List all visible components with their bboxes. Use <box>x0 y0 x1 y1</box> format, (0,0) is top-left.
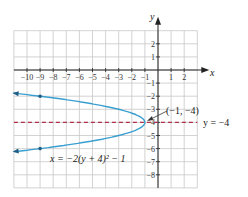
svg-text:−10: −10 <box>21 73 34 82</box>
svg-text:−8: −8 <box>146 171 155 180</box>
svg-text:2: 2 <box>182 73 186 82</box>
svg-text:2: 2 <box>151 40 155 49</box>
svg-text:−9: −9 <box>36 73 45 82</box>
svg-text:−4: −4 <box>101 73 110 82</box>
svg-text:−3: −3 <box>114 73 123 82</box>
equation-label: x = −2(y + 4)² − 1 <box>49 153 126 165</box>
svg-text:−1: −1 <box>146 79 155 88</box>
x-axis-label: x <box>209 67 215 78</box>
svg-text:−3: −3 <box>146 105 155 114</box>
svg-text:−7: −7 <box>146 158 155 167</box>
svg-text:1: 1 <box>169 73 173 82</box>
axis-of-symmetry-label: y = −4 <box>203 117 229 128</box>
svg-text:−2: −2 <box>146 92 155 101</box>
svg-text:−2: −2 <box>128 73 137 82</box>
svg-text:−8: −8 <box>49 73 58 82</box>
svg-text:−5: −5 <box>146 132 155 141</box>
vertex-label: (−1, −4) <box>166 105 199 117</box>
parabola-graph: −10−9−8−7−6−5−4−3−2−11221−1−2−3−4−5−6−7−… <box>0 0 248 197</box>
y-axis-label: y <box>149 11 155 22</box>
svg-text:−6: −6 <box>75 73 84 82</box>
svg-text:−5: −5 <box>88 73 97 82</box>
svg-text:1: 1 <box>151 53 155 62</box>
svg-text:−7: −7 <box>62 73 71 82</box>
svg-text:−6: −6 <box>146 145 155 154</box>
